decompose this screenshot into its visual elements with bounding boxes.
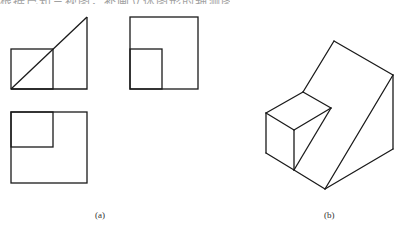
isometric-edge	[303, 92, 331, 108]
figure-b-isometric-solid	[266, 41, 393, 189]
front-view	[11, 17, 87, 89]
top-view	[11, 112, 87, 183]
figure-b-label: (b)	[324, 210, 335, 220]
isometric-edge	[266, 92, 303, 113]
isometric-edge	[334, 41, 393, 75]
isometric-edge	[294, 108, 331, 170]
front-view-slope-line	[11, 17, 87, 89]
side-view-block-rect	[130, 49, 162, 89]
orthographic-and-isometric-drawing	[0, 0, 402, 233]
side-view-outline	[130, 17, 198, 89]
top-view-block-rect	[11, 112, 53, 147]
isometric-edge	[266, 113, 294, 130]
figure-a-label: (a)	[95, 210, 105, 220]
isometric-edge	[303, 41, 334, 92]
figure-a-three-views	[11, 17, 198, 183]
isometric-edge	[325, 75, 393, 189]
isometric-edge	[266, 153, 294, 170]
isometric-edge	[294, 108, 331, 130]
side-view	[130, 17, 198, 89]
isometric-edge	[325, 149, 393, 189]
isometric-edge	[294, 170, 325, 189]
